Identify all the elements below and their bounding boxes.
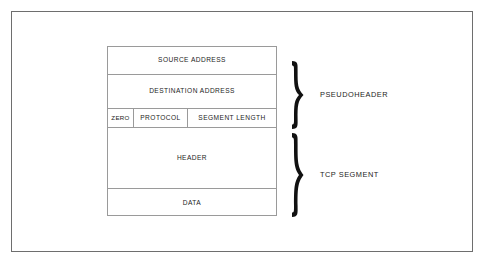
table-row-data: DATA [108, 189, 276, 217]
table-row-source-address: SOURCE ADDRESS [108, 47, 276, 75]
field-label-data: DATA [183, 200, 201, 207]
table-row-destination-address: DESTINATION ADDRESS [108, 75, 276, 109]
curly-brace-icon-tcp-segment [289, 132, 309, 218]
table-cell-protocol: PROTOCOL [134, 109, 188, 127]
table-cell-zero: ZERO [108, 109, 134, 127]
table-cell-segment-length: SEGMENT LENGTH [188, 109, 276, 127]
packet-structure-table: SOURCE ADDRESS DESTINATION ADDRESS ZERO … [107, 46, 277, 216]
table-row-header: HEADER [108, 128, 276, 189]
group-label-pseudoheader: PSEUDOHEADER [320, 91, 388, 98]
field-label-protocol: PROTOCOL [140, 115, 180, 122]
field-label-destination-address: DESTINATION ADDRESS [149, 88, 235, 95]
table-row-split: ZERO PROTOCOL SEGMENT LENGTH [108, 109, 276, 128]
field-label-zero: ZERO [111, 115, 129, 121]
field-label-segment-length: SEGMENT LENGTH [198, 115, 265, 122]
field-label-source-address: SOURCE ADDRESS [158, 57, 226, 64]
field-label-header: HEADER [177, 155, 207, 162]
group-label-tcp-segment: TCP SEGMENT [320, 171, 379, 178]
curly-brace-icon-pseudoheader [289, 60, 309, 130]
diagram-canvas: SOURCE ADDRESS DESTINATION ADDRESS ZERO … [0, 0, 485, 264]
